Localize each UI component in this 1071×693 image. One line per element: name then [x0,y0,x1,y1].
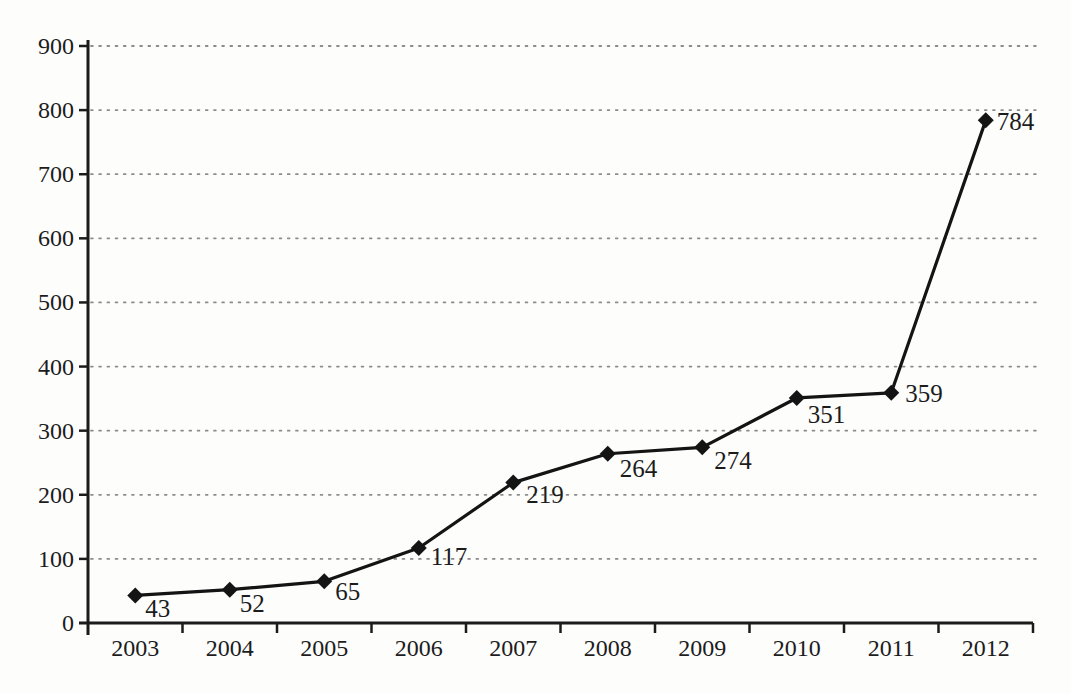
data-point-label: 117 [431,543,468,570]
x-tick-label: 2009 [678,635,726,661]
data-point-label: 65 [335,578,360,605]
x-tick-label: 2007 [489,635,537,661]
x-tick-label: 2011 [868,635,915,661]
data-point-marker [694,439,710,455]
y-tick-label: 300 [38,418,74,444]
data-point-marker [600,446,616,462]
data-line [135,120,986,595]
data-point-label: 359 [905,380,943,407]
data-point-label: 351 [808,401,846,428]
y-tick-label: 600 [38,225,74,251]
data-point-marker [127,587,143,603]
data-point-marker [789,390,805,406]
page: 0100200300400500600700800900200320042005… [0,0,1071,693]
y-tick-label: 800 [38,97,74,123]
line-chart: 0100200300400500600700800900200320042005… [0,0,1071,693]
y-tick-label: 0 [62,610,74,636]
x-tick-label: 2006 [395,635,443,661]
data-point-marker [978,112,994,128]
y-tick-label: 700 [38,161,74,187]
chart-figure: 0100200300400500600700800900200320042005… [0,0,1071,693]
x-tick-label: 2012 [962,635,1010,661]
data-point-marker [222,582,238,598]
x-tick-label: 2004 [206,635,254,661]
data-point-label: 43 [145,595,170,622]
x-tick-label: 2010 [773,635,821,661]
y-tick-label: 500 [38,289,74,315]
x-tick-label: 2008 [584,635,632,661]
y-tick-label: 900 [38,33,74,59]
data-point-label: 52 [240,590,265,617]
y-tick-label: 400 [38,354,74,380]
x-tick-label: 2003 [111,635,159,661]
data-point-label: 219 [526,481,564,508]
data-point-label: 784 [997,108,1035,135]
y-tick-label: 100 [38,546,74,572]
data-point-label: 274 [714,447,752,474]
data-point-label: 264 [620,455,658,482]
data-point-marker [883,385,899,401]
x-tick-label: 2005 [300,635,348,661]
y-tick-label: 200 [38,482,74,508]
data-point-marker [316,573,332,589]
